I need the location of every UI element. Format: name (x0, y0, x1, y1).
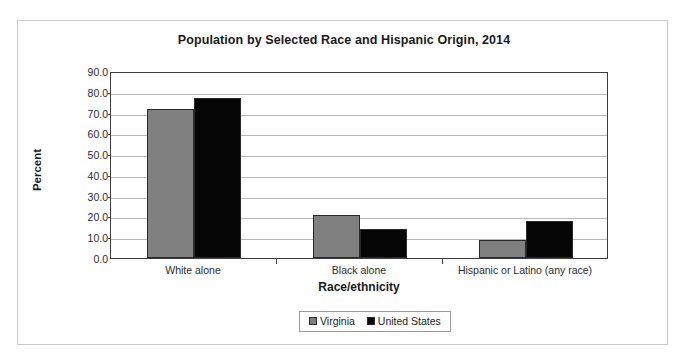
plot-area (110, 72, 608, 259)
chart-legend: VirginiaUnited States (299, 311, 451, 332)
legend-label: Virginia (320, 315, 355, 327)
y-axis-tick-label: 10.0 (66, 232, 108, 244)
x-axis-tick-label: Black alone (332, 264, 386, 276)
x-axis-title: Race/ethnicity (110, 280, 608, 294)
y-axis-tick-label: 80.0 (66, 87, 108, 99)
bar (147, 109, 194, 258)
legend-swatch-icon (309, 317, 317, 325)
y-axis-title-text: Percent (31, 149, 43, 191)
y-axis-tick-label: 20.0 (66, 211, 108, 223)
chart-screenshot: Population by Selected Race and Hispanic… (0, 0, 688, 363)
x-axis-tick-label: Hispanic or Latino (any race) (458, 264, 592, 276)
chart-title: Population by Selected Race and Hispanic… (0, 33, 688, 47)
bars-layer (111, 73, 607, 258)
y-axis-tick-label: 30.0 (66, 191, 108, 203)
bar (360, 229, 407, 258)
bar-group (277, 73, 443, 258)
bar (194, 98, 241, 258)
x-axis-tick-label: White alone (165, 264, 220, 276)
bar (526, 221, 573, 258)
y-axis-tick-label: 60.0 (66, 128, 108, 140)
legend-item: Virginia (309, 315, 355, 327)
y-axis-tick-labels: 0.010.020.030.040.050.060.070.080.090.0 (60, 72, 108, 259)
legend-item: United States (367, 315, 441, 327)
y-axis-tick-label: 70.0 (66, 108, 108, 120)
bar (479, 240, 526, 258)
legend-swatch-icon (367, 317, 375, 325)
legend-label: United States (378, 315, 441, 327)
x-axis-tick-labels: White aloneBlack aloneHispanic or Latino… (110, 264, 608, 280)
y-axis-tick-label: 0.0 (66, 253, 108, 265)
y-axis-tick-label: 40.0 (66, 170, 108, 182)
y-axis-tick-label: 50.0 (66, 149, 108, 161)
bar (313, 215, 360, 258)
y-axis-title: Percent (27, 125, 47, 215)
bar-group (443, 73, 609, 258)
y-axis-tick-label: 90.0 (66, 66, 108, 78)
bar-group (111, 73, 277, 258)
